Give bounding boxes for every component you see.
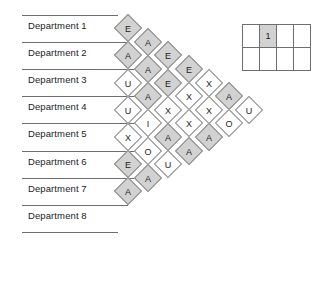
relationship-code: A [199, 128, 219, 148]
legend-row [243, 48, 311, 71]
relationship-code: O [138, 142, 158, 162]
legend-cell [243, 48, 260, 71]
relationship-code: U [118, 74, 138, 94]
legend-cell [277, 48, 294, 71]
legend-cell [260, 48, 277, 71]
relationship-code: X [199, 74, 219, 94]
relationship-code: U [158, 156, 178, 176]
relationship-code: X [179, 115, 199, 135]
relationship-code: X [118, 128, 138, 148]
relationship-code: E [118, 20, 138, 40]
relationship-code: U [118, 101, 138, 121]
relationship-code: A [118, 47, 138, 67]
relationship-matrix: EAUUXEAAAAIOAEEXAUEXXAXXAAOU [0, 0, 240, 284]
relationship-code: I [138, 115, 158, 135]
relationship-code: A [219, 88, 239, 108]
relationship-code: E [179, 60, 199, 80]
legend-cell [294, 25, 311, 48]
legend-table-body: 1 [243, 25, 311, 71]
relationship-code: E [118, 156, 138, 176]
legend-cell [294, 48, 311, 71]
legend-cell [277, 25, 294, 48]
legend-cell: 1 [260, 25, 277, 48]
legend-cell [243, 25, 260, 48]
relationship-code: A [138, 88, 158, 108]
relationship-code: A [158, 128, 178, 148]
relationship-code: E [158, 74, 178, 94]
relationship-code: A [138, 169, 158, 189]
relationship-code: U [239, 101, 259, 121]
relationship-code: A [118, 183, 138, 203]
legend-row: 1 [243, 25, 311, 48]
relationship-code: A [179, 142, 199, 162]
relationship-code: E [158, 47, 178, 67]
legend-table: 1 [242, 24, 311, 71]
relationship-code: X [179, 88, 199, 108]
relationship-code: X [199, 101, 219, 121]
relationship-code: A [138, 60, 158, 80]
relationship-code: A [138, 33, 158, 53]
relationship-code: O [219, 115, 239, 135]
relationship-code: X [158, 101, 178, 121]
